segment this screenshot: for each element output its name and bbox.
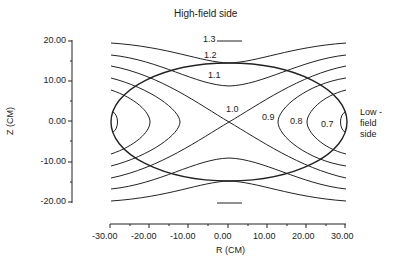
contour-label-1.3: 1.3 (203, 34, 216, 44)
y-tick: -10.00 (40, 156, 66, 166)
contour-label-0.9: 0.9 (262, 112, 275, 122)
contour-label-1.2: 1.2 (204, 50, 217, 60)
low-field-label: Low - field side (360, 107, 382, 140)
x-tick: 10.00 (253, 231, 276, 241)
x-tick: 30.00 (331, 231, 354, 241)
x-tick: -10.00 (170, 231, 196, 241)
x-axis-label: R (CM) (216, 245, 245, 255)
low-field-line-1: Low - (360, 107, 382, 118)
y-axis-label: Z (CM) (5, 107, 15, 135)
x-tick: -20.00 (131, 231, 157, 241)
x-tick: 20.00 (292, 231, 315, 241)
contour-label-0.8: 0.8 (290, 116, 303, 126)
y-tick: -20.00 (40, 196, 66, 206)
x-tick: 0.00 (214, 231, 232, 241)
contour-label-1.1: 1.1 (208, 70, 221, 80)
x-tick: -30.00 (92, 231, 118, 241)
contour-label-0.7: 0.7 (321, 119, 334, 129)
y-tick: 0.00 (48, 116, 66, 126)
y-tick: 10.00 (43, 75, 66, 85)
title: High-field side (174, 8, 237, 19)
contour-label-1.0: 1.0 (226, 104, 239, 114)
low-field-line-2: field (360, 118, 382, 129)
low-field-line-3: side (360, 129, 382, 140)
y-tick: 20.00 (43, 35, 66, 45)
